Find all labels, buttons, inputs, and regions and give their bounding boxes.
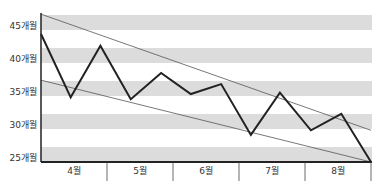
x-tick-label: 7월 <box>265 165 279 176</box>
y-tick-label: 30개월 <box>10 119 37 130</box>
grid-band <box>41 15 372 30</box>
y-tick-label: 25개월 <box>10 152 37 163</box>
y-tick-label: 45개월 <box>10 20 37 31</box>
x-axis-labels: 4월5월6월7월8월 <box>67 162 371 181</box>
x-tick-label: 8월 <box>331 165 345 176</box>
grid-band <box>41 147 372 162</box>
y-axis-labels: 25개월30개월35개월40개월45개월 <box>10 20 37 163</box>
upper-trend <box>41 14 371 130</box>
x-tick-label: 4월 <box>67 165 81 176</box>
x-tick-label: 5월 <box>133 165 147 176</box>
x-tick-label: 6월 <box>199 165 213 176</box>
trend-line-chart: 25개월30개월35개월40개월45개월 4월5월6월7월8월 <box>0 0 384 190</box>
y-tick-label: 35개월 <box>10 86 37 97</box>
y-tick-label: 40개월 <box>10 53 37 64</box>
